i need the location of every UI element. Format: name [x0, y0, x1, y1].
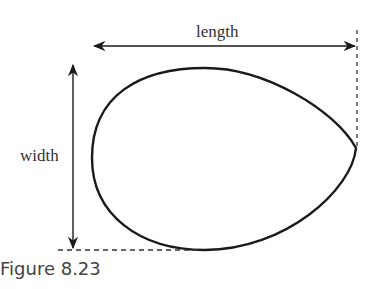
figure-caption: Figure 8.23 — [0, 258, 101, 279]
width-label: width — [20, 146, 59, 165]
egg-diagram: length width — [0, 0, 377, 289]
length-label: length — [196, 22, 239, 41]
egg-outline — [92, 68, 356, 250]
